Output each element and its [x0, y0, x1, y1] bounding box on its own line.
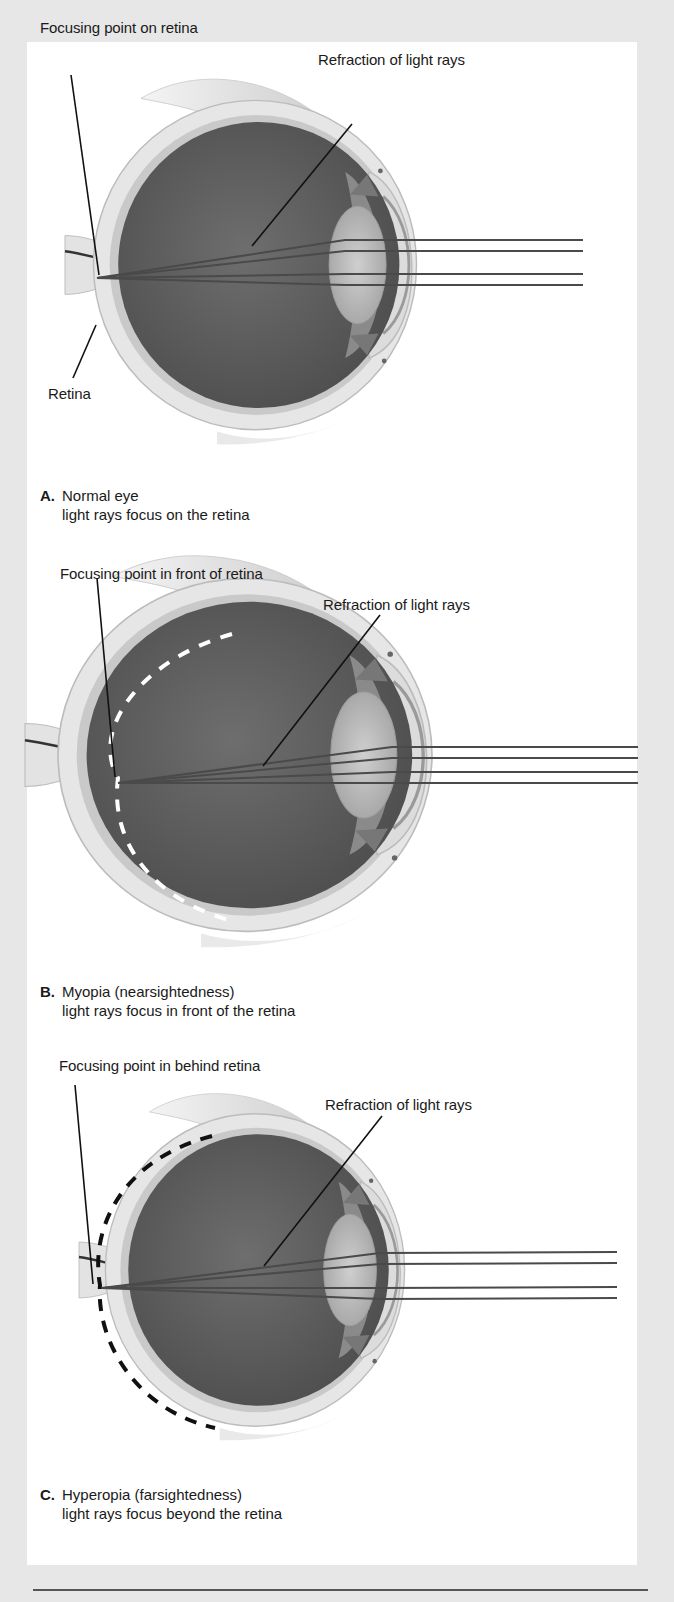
caption-a: A.Normal eye light rays focus on the ret… — [40, 486, 250, 524]
caption-b: B.Myopia (nearsightedness) light rays fo… — [40, 982, 295, 1020]
caption-letter-c: C. — [40, 1485, 62, 1504]
label-focusing-point-a: Focusing point on retina — [40, 19, 198, 36]
caption-letter-b: B. — [40, 982, 62, 1001]
caption-title-b: Myopia (nearsightedness) — [62, 983, 235, 1000]
bottom-divider — [33, 1589, 648, 1591]
label-focusing-point-b: Focusing point in front of retina — [60, 565, 263, 582]
caption-letter-a: A. — [40, 486, 62, 505]
label-focusing-point-c: Focusing point in behind retina — [59, 1057, 260, 1074]
caption-title-c: Hyperopia (farsightedness) — [62, 1486, 242, 1503]
eye-myopia — [25, 556, 432, 947]
caption-subtitle-c: light rays focus beyond the retina — [40, 1504, 282, 1523]
label-retina-a: Retina — [48, 385, 91, 402]
label-refraction-b: Refraction of light rays — [323, 596, 470, 613]
label-refraction-a: Refraction of light rays — [318, 51, 465, 68]
label-refraction-c: Refraction of light rays — [325, 1096, 472, 1113]
eye-diagrams — [0, 0, 674, 1602]
caption-c: C.Hyperopia (farsightedness) light rays … — [40, 1485, 282, 1523]
caption-title-a: Normal eye — [62, 487, 139, 504]
caption-subtitle-a: light rays focus on the retina — [40, 505, 250, 524]
caption-subtitle-b: light rays focus in front of the retina — [40, 1001, 295, 1020]
